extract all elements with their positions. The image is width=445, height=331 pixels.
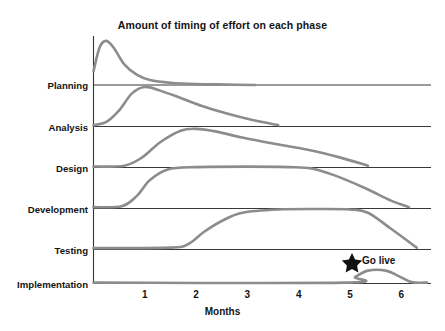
go-live-star-marker: [342, 253, 362, 272]
x-tick-4: 4: [296, 289, 302, 300]
y-axis-label-text: Testing: [55, 244, 88, 255]
x-axis-title: Months: [0, 306, 445, 317]
curve-implementation: [94, 270, 427, 283]
y-axis-label-text: Development: [28, 203, 88, 214]
curve-testing: [94, 209, 417, 248]
curve-group: [94, 41, 427, 283]
baseline-group: [94, 85, 432, 284]
curve-planning: [94, 41, 256, 85]
star-icon: [342, 253, 362, 272]
y-axis-label-text: Design: [56, 162, 88, 173]
go-live-label: Go live: [362, 255, 395, 266]
x-tick-2: 2: [193, 289, 199, 300]
chart-container: Amount of timing of effort on each phase…: [0, 0, 445, 331]
x-tick-5: 5: [347, 289, 353, 300]
y-axis-label-text: Planning: [47, 80, 88, 91]
curve-analysis: [94, 87, 279, 125]
y-axis-label-text: Analysis: [49, 121, 88, 132]
y-axis-label-text: Implementation: [17, 278, 88, 289]
x-tick-6: 6: [399, 289, 405, 300]
x-tick-1: 1: [142, 289, 148, 300]
curve-development: [94, 167, 410, 208]
curve-design: [94, 129, 368, 167]
x-tick-3: 3: [245, 289, 251, 300]
